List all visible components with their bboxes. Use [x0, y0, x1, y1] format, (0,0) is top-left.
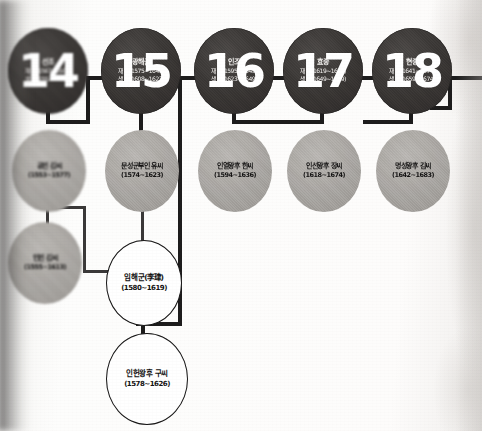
queen-dates: (1642~1683) — [392, 172, 434, 179]
prince-name: 인헌왕후 구씨 — [126, 370, 168, 378]
connector-king14-child-bus — [48, 120, 90, 124]
queen-name: 명성왕후 김씨 — [395, 163, 431, 171]
genealogy-chart-canvas: 선조재위(1567~1608)생몰(1552~1608)14광해군재위(1575… — [0, 0, 482, 431]
queen-name: 인선왕후 장씨 — [306, 163, 342, 171]
connector-king15-left-drop — [86, 76, 90, 124]
queen-dates: (1574~1623) — [121, 172, 163, 179]
queen-dates: (1553~1577) — [28, 172, 70, 179]
king-name: 효종 — [317, 59, 328, 67]
connector-concubine-right-drop — [83, 206, 86, 272]
queen-node[interactable]: 명성왕후 김씨(1642~1683) — [376, 130, 450, 212]
king-node-15[interactable]: 광해군재위(1575~1641)생몰(1608~1623)15 — [101, 28, 181, 114]
prince-dates: (1578~1626) — [124, 381, 170, 389]
king-name: 현종 — [406, 59, 417, 67]
queen-node[interactable]: 인선왕후 장씨(1618~1674) — [287, 130, 361, 212]
concubine-dates: (1555~1613) — [24, 264, 66, 271]
queen-name: 문성군부인 유씨 — [121, 163, 162, 171]
queen-node[interactable]: 공빈 김씨(1553~1577) — [12, 130, 86, 212]
prince-node[interactable]: 인헌왕후 구씨(1578~1626) — [106, 333, 188, 425]
prince-name: 임해군(李珒) — [124, 274, 163, 282]
prince-node[interactable]: 임해군(李珒)(1580~1619) — [106, 240, 182, 326]
king-node-17[interactable]: 효종재위(1619~1659)생몰(1649~1659)17 — [283, 28, 363, 114]
queen-name: 공빈 김씨 — [37, 163, 61, 171]
queen-dates: (1594~1636) — [214, 172, 256, 179]
connector-queen15-to-prince-drop — [141, 208, 144, 244]
queen-node[interactable]: 인열왕후 한씨(1594~1636) — [198, 130, 272, 212]
connector-king18-child-bus — [363, 120, 413, 124]
connector-king18-right-bus — [448, 76, 482, 80]
king-lifespan: 생몰(1608~1623) — [118, 74, 164, 83]
connector-king16-child-bus — [232, 120, 274, 124]
prince-dates: (1580~1619) — [121, 285, 167, 293]
king-node-16[interactable]: 인조재위(1595~1649)생몰(1623~1649)16 — [194, 28, 274, 114]
concubine-node[interactable]: 인빈 김씨(1555~1613) — [8, 222, 82, 304]
queen-name: 인열왕후 한씨 — [217, 163, 253, 171]
queen-dates: (1618~1674) — [303, 172, 345, 179]
queen-node[interactable]: 문성군부인 유씨(1574~1623) — [105, 130, 179, 212]
king-lifespan: 생몰(1623~1649) — [211, 74, 257, 83]
king-name: 인조 — [228, 59, 239, 67]
king-node-18[interactable]: 현종재위(1641~1674)생몰(1659~1674)18 — [372, 28, 452, 114]
concubine-name: 인빈 김씨 — [33, 255, 57, 263]
connector-king17-child-bus — [274, 120, 324, 124]
king-lifespan: 생몰(1552~1608) — [25, 74, 71, 83]
king-lifespan: 생몰(1649~1659) — [300, 74, 346, 83]
king-node-14[interactable]: 선조재위(1567~1608)생몰(1552~1608)14 — [8, 28, 88, 114]
king-name: 선조 — [42, 59, 53, 67]
king-lifespan: 생몰(1659~1674) — [389, 74, 435, 83]
king-name: 광해군 — [132, 59, 149, 67]
